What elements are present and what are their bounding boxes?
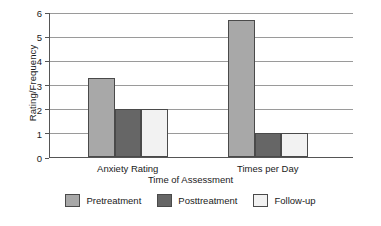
category-label-1: Times per Day: [237, 164, 298, 174]
y-tick-label-4: 4: [12, 57, 42, 67]
category-label-0: Anxiety Rating: [97, 164, 158, 174]
legend-swatch-icon-2: [253, 194, 268, 207]
gridline-6: [49, 13, 353, 14]
y-tick-label-0: 0: [12, 154, 42, 164]
y-tick-label-2: 2: [12, 106, 42, 116]
y-tick-label-5: 5: [12, 33, 42, 43]
y-axis-line: [49, 13, 50, 158]
bar-1-1: [255, 133, 282, 157]
legend-swatch-icon-1: [157, 194, 172, 207]
legend-item-0[interactable]: Pretreatment: [65, 194, 141, 207]
legend-label-2: Follow-up: [274, 196, 315, 206]
y-tick-label-6: 6: [12, 9, 42, 19]
bar-0-2: [141, 109, 168, 157]
legend-swatch-icon-0: [65, 194, 80, 207]
bar-0-0: [88, 78, 115, 157]
gridline-5: [49, 37, 353, 38]
bar-0-1: [115, 109, 142, 157]
x-axis-line: [49, 157, 353, 158]
gridline-4: [49, 61, 353, 62]
x-axis-title: Time of Assessment: [0, 175, 381, 185]
plot-area: 0123456: [49, 13, 353, 158]
bar-1-0: [228, 20, 255, 157]
chart-legend: PretreatmentPosttreatmentFollow-up: [0, 194, 381, 207]
legend-label-1: Posttreatment: [178, 196, 237, 206]
y-tick-label-1: 1: [12, 130, 42, 140]
legend-item-2[interactable]: Follow-up: [253, 194, 315, 207]
legend-item-1[interactable]: Posttreatment: [157, 194, 237, 207]
y-tick-label-3: 3: [12, 82, 42, 92]
bar-1-2: [281, 133, 308, 157]
bar-chart-figure: Rating/Frequency 0123456 Anxiety RatingT…: [0, 0, 381, 226]
legend-label-0: Pretreatment: [86, 196, 141, 206]
